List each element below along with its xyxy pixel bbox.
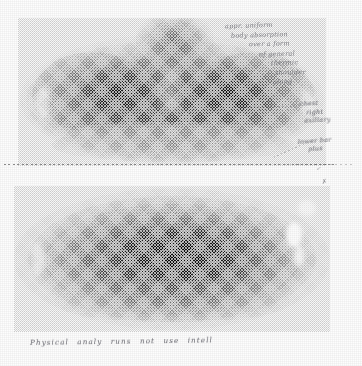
lower-scan — [14, 186, 330, 332]
note-line: axillary — [304, 116, 331, 126]
note-line: plus — [308, 144, 332, 154]
scanned-document-page: appr. uniform body absorption over a for… — [0, 0, 362, 366]
bottom-handwritten-caption: Physical analy runs not use intell — [30, 335, 213, 347]
note-line: along — [273, 76, 359, 87]
mid-right-handwritten-note: chest right axillary — [299, 98, 331, 125]
check-mark-icon: ✓ — [315, 165, 321, 173]
lower-scan-thermal-field — [14, 186, 330, 332]
upper-right-handwritten-note: appr. uniform body absorption over a for… — [225, 20, 359, 87]
cross-mark-icon: ✗ — [321, 178, 328, 187]
dotted-divider-faded-extension — [150, 164, 355, 165]
lower-right-handwritten-note: lower bar plus — [297, 136, 332, 155]
